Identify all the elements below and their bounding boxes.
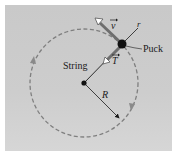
direction-arrow-icon: [129, 103, 135, 111]
circular-motion-diagram: [0, 0, 180, 155]
string-label: String: [63, 61, 87, 71]
velocity-label: v: [111, 21, 115, 31]
t-vector-overarrow-tip-icon: [118, 54, 120, 57]
puck: [118, 40, 127, 49]
direction-arrow-icon: [30, 56, 36, 64]
tension-label: T: [112, 56, 118, 66]
v-vector-overarrow-tip-icon: [116, 19, 118, 22]
r-axis-label: r: [137, 20, 141, 29]
puck-label: Puck: [143, 44, 163, 54]
radius-label: R: [102, 90, 108, 100]
puck-leader-line: [126, 46, 142, 49]
